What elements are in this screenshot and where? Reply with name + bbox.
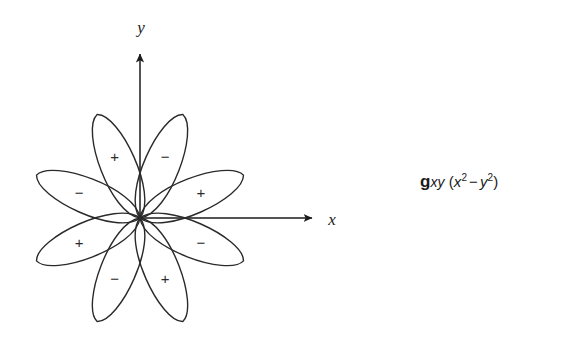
caption-operator: −: [469, 173, 478, 190]
lobe-upper-right-outer: [140, 170, 243, 222]
lobe-upper-left-outer-sign: −: [75, 184, 84, 201]
caption-subscript: xy: [430, 174, 444, 190]
orbital-caption: gxy(x2−y2): [420, 172, 498, 192]
lobe-upper-left-inner: [92, 115, 144, 218]
lobe-upper-left-inner-sign: +: [110, 148, 119, 165]
y-axis-label: y: [135, 18, 145, 37]
caption-paren-close: ): [493, 173, 498, 190]
caption-symbol: g: [420, 172, 430, 191]
caption-term2-var: y: [480, 173, 488, 190]
lobe-upper-right-inner: [135, 115, 187, 218]
lobe-upper-left-outer: [37, 170, 140, 222]
lobe-upper-right-inner-sign: −: [161, 148, 170, 165]
lobe-lower-left-inner-sign: −: [110, 270, 119, 287]
x-axis-label: x: [327, 210, 336, 229]
lobe-lower-right-inner-sign: +: [161, 270, 170, 287]
lobe-lower-right-outer: [140, 213, 243, 265]
lobe-upper-right-outer-sign: +: [197, 184, 206, 201]
lobe-lower-left-outer-sign: +: [75, 234, 84, 251]
lobe-lower-right-outer-sign: −: [197, 234, 206, 251]
lobe-lower-left-outer: [37, 213, 140, 265]
caption-term1-exp: 2: [461, 172, 467, 183]
